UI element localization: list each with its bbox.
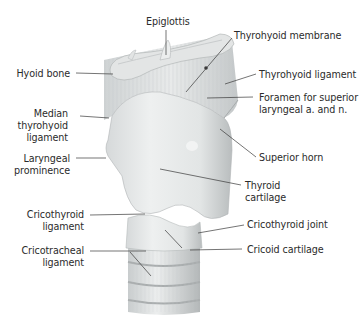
larynx-diagram: Epiglottis Thyrohyoid membrane Hyoid bon…: [0, 0, 360, 328]
label-cricotracheal-line1: Cricotracheal: [0, 245, 84, 257]
label-cricothyroid-lig-line1: Cricothyroid: [0, 209, 84, 221]
label-median-line1: Median: [0, 108, 68, 120]
label-epiglottis: Epiglottis: [146, 16, 190, 28]
cricoid-cartilage-shape: [126, 215, 202, 251]
label-foramen: Foramen for superior laryngeal a. and n.: [259, 92, 358, 116]
label-median-line2: thyrohyoid: [0, 120, 68, 132]
label-cricothyroid-joint: Cricothyroid joint: [247, 219, 328, 231]
label-cricothyroid-lig-line2: ligament: [0, 221, 84, 233]
label-thyroid-cartilage: Thyroid cartilage: [245, 180, 286, 204]
label-thyrohyoid-membrane: Thyrohyoid membrane: [234, 30, 341, 42]
label-cricotracheal-ligament: Cricotracheal ligament: [0, 245, 84, 269]
label-median-thyrohyoid-ligament: Median thyrohyoid ligament: [0, 108, 68, 144]
label-median-line3: ligament: [0, 132, 68, 144]
label-foramen-line1: Foramen for superior: [259, 92, 358, 104]
label-cricothyroid-ligament: Cricothyroid ligament: [0, 209, 84, 233]
label-hyoid-bone: Hyoid bone: [0, 68, 70, 80]
label-thyrohyoid-ligament: Thyrohyoid ligament: [259, 69, 356, 81]
label-laryngeal-line1: Laryngeal: [0, 153, 70, 165]
label-superior-horn: Superior horn: [259, 152, 323, 164]
label-laryngeal-prominence: Laryngeal prominence: [0, 153, 70, 177]
label-cricoid-cartilage: Cricoid cartilage: [247, 244, 324, 256]
label-thyroid-line1: Thyroid: [245, 180, 286, 192]
label-cricotracheal-line2: ligament: [0, 257, 84, 269]
label-thyroid-line2: cartilage: [245, 192, 286, 204]
label-foramen-line2: laryngeal a. and n.: [259, 104, 358, 116]
trachea: [128, 246, 200, 315]
label-laryngeal-line2: prominence: [0, 165, 70, 177]
